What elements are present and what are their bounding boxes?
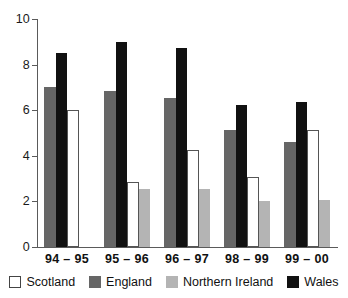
legend-item[interactable]: England [89, 275, 152, 289]
bar-chart: 0246810 94 – 9595 – 9696 – 9798 – 9999 –… [0, 0, 348, 298]
y-tick-label: 4 [23, 149, 30, 163]
legend-item-label: Wales [304, 275, 338, 289]
y-tick-mark [32, 247, 37, 248]
legend-item[interactable]: Scotland [9, 275, 75, 289]
bar-scotland [247, 177, 259, 247]
bar-wales [176, 48, 188, 248]
northern-ireland-swatch [166, 276, 178, 288]
legend-item[interactable]: Wales [287, 275, 338, 289]
bar-scotland [187, 150, 199, 247]
bar-wales [116, 42, 128, 247]
wales-swatch [287, 276, 299, 288]
x-tick-label: 95 – 96 [105, 252, 149, 266]
bar-england [284, 142, 296, 247]
bar-england [104, 91, 116, 247]
bar-scotland [127, 182, 139, 247]
y-tick-label: 0 [23, 240, 30, 254]
x-axis-line [37, 247, 338, 248]
y-tick-label: 2 [23, 194, 30, 208]
bar-england [164, 98, 176, 247]
bar-wales [56, 53, 68, 247]
legend-item-label: Scotland [26, 275, 75, 289]
bar-northern-ireland [319, 200, 331, 247]
x-tick-label: 96 – 97 [165, 252, 209, 266]
bar-england [44, 87, 56, 247]
x-tick-label: 99 – 00 [285, 252, 329, 266]
legend-item-label: Northern Ireland [183, 275, 273, 289]
bar-england [224, 130, 236, 247]
y-tick-label: 6 [23, 103, 30, 117]
bar-northern-ireland [259, 201, 271, 247]
bar-northern-ireland [139, 189, 151, 247]
scotland-swatch [9, 276, 21, 288]
chart-legend: ScotlandEnglandNorthern IrelandWales [0, 275, 348, 289]
england-swatch [89, 276, 101, 288]
y-tick-label: 10 [16, 12, 30, 26]
legend-item-label: England [106, 275, 152, 289]
y-tick-label: 8 [23, 58, 30, 72]
bar-scotland [307, 130, 319, 247]
bar-northern-ireland [199, 189, 211, 247]
plot-area [37, 19, 337, 247]
x-tick-label: 98 – 99 [225, 252, 269, 266]
legend-item[interactable]: Northern Ireland [166, 275, 273, 289]
x-tick-label: 94 – 95 [45, 252, 89, 266]
bar-wales [296, 102, 308, 247]
bar-scotland [67, 110, 79, 247]
bar-wales [236, 105, 248, 248]
